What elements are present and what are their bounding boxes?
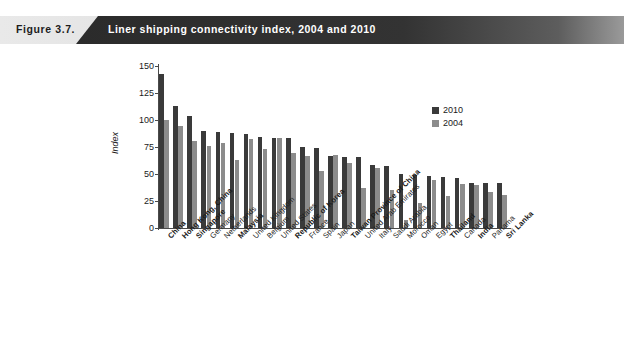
figure-header-banner: Figure 3.7. Liner shipping connectivity … [0,16,624,44]
y-axis-tick-125: 125 [139,88,154,98]
bar-2010 [356,157,361,228]
figure-title: Liner shipping connectivity index, 2004 … [108,23,376,35]
bar-2010 [455,178,460,228]
bar-group [441,66,455,228]
y-axis-tick-labels: 0255075100125150 [118,66,154,228]
bar-2004 [164,120,169,228]
y-axis-tick-25: 25 [144,196,154,206]
y-axis-tick-50: 50 [144,169,154,179]
bar-group [497,66,511,228]
bar-group [342,66,356,228]
y-axis-tickmark-50 [155,174,159,175]
y-axis-tickmark-100 [155,120,159,121]
bar-chart: Index 0255075100125150 ChinaHong Kong, C… [0,52,624,344]
y-axis-tick-150: 150 [139,61,154,71]
legend-label: 2010 [443,105,463,115]
y-axis-tickmark-75 [155,147,159,148]
legend-item: 2004 [432,118,463,128]
y-axis-tickmark-25 [155,201,159,202]
bar-group [356,66,370,228]
x-axis-category-labels: ChinaHong Kong, ChinaSingaporeGermanyNet… [0,230,624,344]
bar-group [469,66,483,228]
legend-item: 2010 [432,105,463,115]
legend-label: 2004 [443,118,463,128]
y-axis-tick-100: 100 [139,115,154,125]
figure-number: Figure 3.7. [16,23,75,35]
bar-group [258,66,272,228]
bar-group [455,66,469,228]
bar-group [159,66,173,228]
bar-2010 [441,177,446,228]
bar-group [427,66,441,228]
chart-legend: 20102004 [432,105,463,131]
y-axis-tickmark-125 [155,93,159,94]
bar-group [187,66,201,228]
bar-group [483,66,497,228]
y-axis-tick-75: 75 [144,142,154,152]
bar-2004 [192,141,197,228]
y-axis-tickmark-150 [155,66,159,67]
bar-2010 [159,74,164,228]
legend-swatch-icon [432,107,439,114]
bar-group [230,66,244,228]
y-axis-tickmark-0 [155,228,159,229]
bar-2010 [173,106,178,228]
bar-group [173,66,187,228]
bar-2004 [178,126,183,228]
bar-2010 [286,138,291,228]
legend-swatch-icon [432,120,439,127]
bar-2010 [187,116,192,228]
bar-2010 [328,156,333,228]
